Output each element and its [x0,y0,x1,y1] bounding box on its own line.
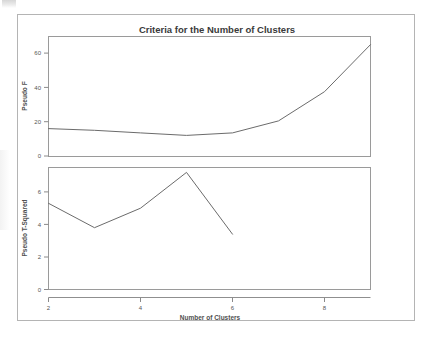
top-yticklabel-20: 20 [34,119,41,125]
scan-artifact-left [0,150,10,230]
xticklabel-8: 8 [323,305,327,311]
bottom-yticklabel-2: 2 [38,254,42,260]
xticklabel-2: 2 [47,305,51,311]
top-panel-ylabel: Pseudo F [21,81,28,110]
top-yticklabel-60: 60 [34,50,41,56]
bottom-yticklabel-6: 6 [38,189,42,195]
pseudo-f-line [49,45,371,136]
bottom-yticklabel-0: 0 [38,287,42,293]
top-panel-pseudo-f: 60 40 20 0 Pseudo F [21,37,371,160]
xticklabel-4: 4 [139,305,143,311]
top-yticklabel-0: 0 [38,153,42,159]
x-axis-label: Number of Clusters [180,314,241,321]
chart-figure: Criteria for the Number of Clusters 60 4… [0,0,435,342]
top-panel-frame [49,37,371,157]
top-yticklabel-40: 40 [34,85,41,91]
x-axis: 2 4 6 8 Number of Clusters [47,298,371,322]
bottom-panel-frame [49,168,371,290]
pseudo-t-squared-line [49,172,233,234]
page-title: Criteria for the Number of Clusters [139,24,295,35]
xticklabel-6: 6 [231,305,235,311]
criteria-clusters-chart: Criteria for the Number of Clusters 60 4… [0,0,435,342]
bottom-panel-ylabel: Pseudo T-Squared [21,199,29,256]
bottom-panel-pseudo-t-squared: 6 4 2 0 Pseudo T-Squared [21,168,371,293]
scan-artifact-top-left [2,0,16,8]
bottom-yticklabel-4: 4 [38,222,42,228]
